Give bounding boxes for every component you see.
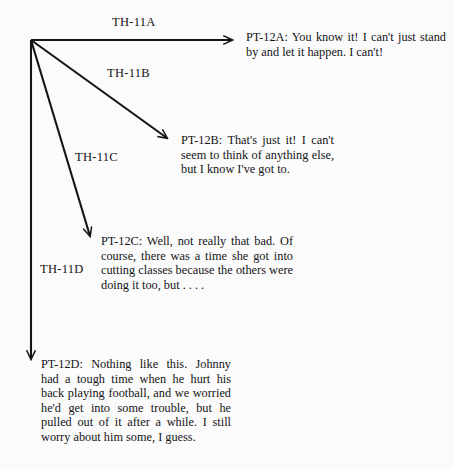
response-block-pt-12d: PT-12D: Nothing like this. Johnny had a … [41, 357, 231, 445]
response-block-pt-12a: PT-12A: You know it! I can't just stand … [246, 30, 446, 59]
response-block-pt-12c: PT-12C: Well, not really that bad. Of co… [101, 234, 293, 292]
arrow-th-11c [31, 40, 90, 236]
arrow-th-11b [31, 40, 167, 138]
branch-label-th-11d: TH-11D [40, 262, 84, 277]
branch-label-th-11b: TH-11B [107, 66, 150, 81]
branch-label-th-11c: TH-11C [75, 150, 118, 165]
branch-label-th-11a: TH-11A [112, 15, 156, 30]
response-block-pt-12b: PT-12B: That's just it! I can't seem to … [181, 133, 334, 177]
branching-diagram: TH-11A TH-11B TH-11C TH-11D PT-12A: You … [0, 0, 454, 470]
